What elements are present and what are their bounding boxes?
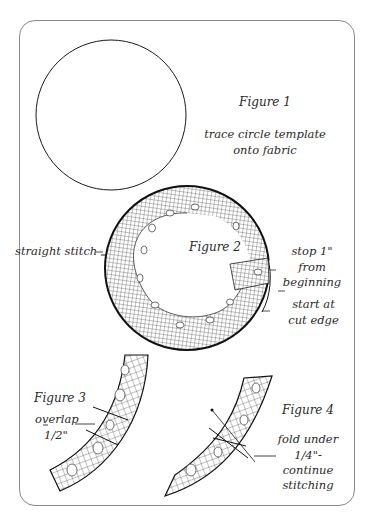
overlap-label-line-1: overlap (35, 412, 77, 426)
fold-label-line-4: stitching (272, 478, 344, 492)
straight-stitch-label: straight stitch (15, 244, 93, 258)
fold-label-line-1: fold under (272, 432, 344, 446)
figure-2-title: Figure 2 (180, 240, 250, 254)
stop-label-line-1: stop 1" (282, 244, 342, 258)
figure-1-title: Figure 1 (230, 95, 300, 109)
figure-1-caption-line-1: trace circle template (190, 127, 340, 141)
start-label-line-2: cut edge (286, 313, 341, 327)
stop-label-line-2: from (282, 260, 342, 274)
stop-label-line-3: beginning (282, 275, 342, 289)
figure-1-caption-line-2: onto fabric (190, 143, 340, 157)
fold-label-line-2: 1/4"- (272, 448, 344, 462)
fabric-strip-4 (165, 376, 272, 496)
fold-label-line-3: continue (272, 463, 344, 477)
figure-4-title: Figure 4 (278, 403, 338, 417)
figure-3-title: Figure 3 (30, 391, 90, 405)
start-label-line-1: start at (286, 297, 341, 311)
template-circle (36, 40, 186, 190)
overlap-label-line-2: 1/2" (35, 428, 77, 442)
